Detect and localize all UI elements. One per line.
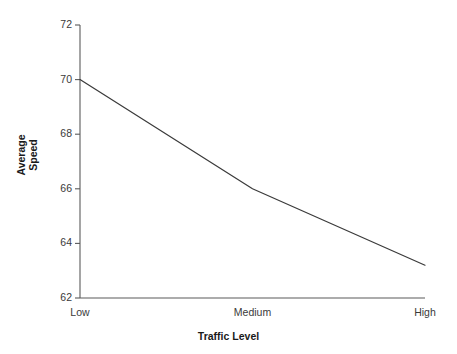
- x-axis-title: Traffic Level: [0, 330, 457, 342]
- y-axis-title-line-2: Speed: [27, 134, 39, 175]
- y-tick-label: 70: [46, 73, 72, 85]
- y-axis-title-line-1: Average: [15, 134, 27, 175]
- y-axis-title: Average Speed: [10, 120, 44, 190]
- y-tick-label: 64: [46, 236, 72, 248]
- chart-figure: 626466687072 LowMediumHigh Average Speed…: [0, 0, 457, 354]
- y-tick-label: 72: [46, 18, 72, 30]
- y-tick-label: 62: [46, 291, 72, 303]
- x-tick-label: High: [385, 306, 457, 318]
- x-tick-label: Low: [40, 306, 120, 318]
- x-tick-label: Medium: [213, 306, 293, 318]
- y-tick-label: 66: [46, 182, 72, 194]
- y-tick-label: 68: [46, 127, 72, 139]
